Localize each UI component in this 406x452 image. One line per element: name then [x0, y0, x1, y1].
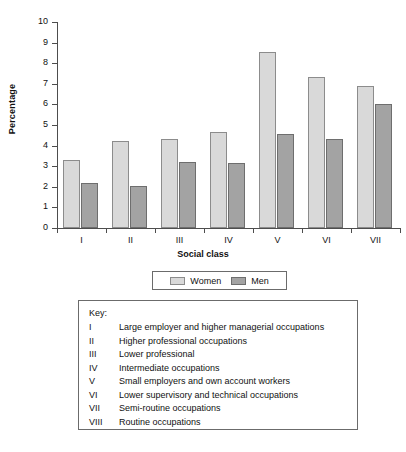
key-numeral: I [89, 321, 119, 335]
key-row: ILarge employer and higher managerial oc… [89, 321, 357, 335]
x-axis-title: Social class [0, 249, 406, 259]
bar-men-IV [228, 163, 245, 228]
chart-legend: Women Men [152, 271, 287, 290]
x-tick [155, 229, 156, 233]
key-numeral: III [89, 348, 119, 362]
bar-men-II [130, 186, 147, 228]
key-description: Routine occupations [119, 416, 357, 430]
x-tick-label-VI: VI [307, 235, 347, 245]
key-description: Lower professional [119, 348, 357, 362]
key-title: Key: [89, 308, 357, 318]
y-axis-title: Percentage [7, 69, 17, 149]
bar-men-III [179, 162, 196, 228]
key-row: IVIntermediate occupations [89, 362, 357, 376]
x-tick-label-VII: VII [356, 235, 396, 245]
key-numeral: VI [89, 389, 119, 403]
bar-women-IV [210, 132, 227, 228]
light-gray-swatch-icon [170, 277, 185, 285]
y-tick-label: 3 [28, 161, 48, 170]
legend-label-women: Women [190, 276, 221, 286]
bar-chart: Percentage 109876543210 IIIIIIIVVVIVII S… [0, 0, 406, 268]
x-tick [253, 229, 254, 233]
legend-item-men: Men [231, 276, 269, 286]
key-row: VIIIRoutine occupations [89, 416, 357, 430]
key-description: Semi-routine occupations [119, 402, 357, 416]
bar-women-V [259, 52, 276, 228]
key-description: Intermediate occupations [119, 362, 357, 376]
key-row: IIILower professional [89, 348, 357, 362]
x-tick [351, 229, 352, 233]
legend-label-men: Men [251, 276, 269, 286]
bar-men-VI [326, 139, 343, 228]
key-numeral: VIII [89, 416, 119, 430]
y-tick-label: 5 [28, 120, 48, 129]
dark-gray-swatch-icon [231, 277, 246, 285]
x-tick [204, 229, 205, 233]
key-row: IIHigher professional occupations [89, 335, 357, 349]
y-tick-label: 2 [28, 182, 48, 191]
y-tick-label: 10 [28, 17, 48, 26]
y-tick-label: 7 [28, 79, 48, 88]
bar-women-VI [308, 77, 325, 228]
bar-men-VII [375, 104, 392, 228]
x-tick-label-III: III [160, 235, 200, 245]
bar-men-V [277, 134, 294, 228]
key-numeral: IV [89, 362, 119, 376]
key-rows: ILarge employer and higher managerial oc… [89, 321, 357, 429]
key-description: Lower supervisory and technical occupati… [119, 389, 357, 403]
x-tick [302, 229, 303, 233]
key-numeral: V [89, 375, 119, 389]
bar-women-VII [357, 86, 374, 228]
bar-women-II [112, 141, 129, 228]
key-box: Key: ILarge employer and higher manageri… [78, 300, 358, 430]
key-description: Higher professional occupations [119, 335, 357, 349]
x-tick [106, 229, 107, 233]
bar-women-I [63, 160, 80, 228]
y-tick-label: 9 [28, 38, 48, 47]
y-tick-label: 0 [28, 223, 48, 232]
x-axis-line [57, 228, 401, 229]
plot-area [57, 22, 400, 228]
x-tick-label-II: II [111, 235, 151, 245]
y-tick-label: 4 [28, 141, 48, 150]
y-tick-label: 8 [28, 58, 48, 67]
x-tick-label-I: I [62, 235, 102, 245]
x-tick [400, 229, 401, 233]
key-row: VILower supervisory and technical occupa… [89, 389, 357, 403]
key-description: Small employers and own account workers [119, 375, 357, 389]
key-row: VIISemi-routine occupations [89, 402, 357, 416]
bar-men-I [81, 183, 98, 228]
legend-item-women: Women [170, 276, 221, 286]
x-tick-label-V: V [258, 235, 298, 245]
bar-women-III [161, 139, 178, 228]
key-row: VSmall employers and own account workers [89, 375, 357, 389]
key-description: Large employer and higher managerial occ… [119, 321, 357, 335]
y-tick-label: 6 [28, 99, 48, 108]
key-numeral: VII [89, 402, 119, 416]
y-tick-label: 1 [28, 202, 48, 211]
x-tick-label-IV: IV [209, 235, 249, 245]
x-tick [57, 229, 58, 233]
key-numeral: II [89, 335, 119, 349]
